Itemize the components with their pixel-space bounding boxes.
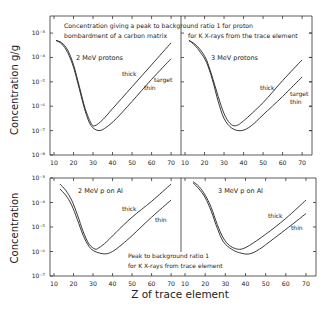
top-caption-line1: Concentration giving a peak to backgroun… — [64, 22, 253, 30]
x-tick-label: 70 — [167, 280, 175, 287]
y-tick-label: 10⁻³ — [32, 174, 46, 181]
bottom-caption-line1: Peak to background ratio 1 — [128, 252, 209, 260]
x-tick-label: 70 — [298, 159, 306, 166]
x-tick-label: 70 — [167, 159, 175, 166]
top-y-axis-label: Concentration g/g — [9, 45, 20, 135]
x-tick-label: 40 — [242, 280, 250, 287]
y-tick-label: 10⁻⁷ — [32, 127, 46, 134]
x-axis-label: Z of trace element — [131, 288, 229, 300]
x-tick-label: 50 — [262, 280, 270, 287]
y-tick-label: 10⁻⁶ — [32, 248, 46, 255]
annotation-target: target — [154, 76, 173, 84]
panel-bottom-right: 102030405060703 MeV p on Althickthin — [181, 178, 316, 287]
x-tick-label: 30 — [89, 159, 97, 166]
x-tick-label: 20 — [70, 159, 78, 166]
x-tick-label: 50 — [259, 159, 267, 166]
annotation-thick: thick — [260, 84, 275, 91]
top-caption-line2a: bombardment of a carbon matrix — [64, 32, 168, 39]
x-tick-label: 60 — [282, 280, 290, 287]
x-tick-label: 20 — [201, 159, 209, 166]
y-tick-label: 10⁻³ — [32, 29, 46, 36]
x-tick-label: 50 — [128, 280, 136, 287]
y-tick-label: 10⁻⁴ — [32, 53, 46, 60]
x-tick-label: 30 — [221, 280, 229, 287]
y-tick-label: 10⁻⁸ — [32, 151, 46, 158]
panel-title: 2 MeV p on Al — [78, 187, 123, 195]
x-tick-label: 10 — [50, 159, 58, 166]
x-tick-label: 20 — [201, 280, 209, 287]
panel-title: 3 MeV p on Al — [218, 187, 263, 195]
annotation-thin: thin — [291, 224, 303, 231]
x-tick-label: 60 — [279, 159, 287, 166]
x-tick-label: 30 — [220, 159, 228, 166]
annotation-thick: thick — [268, 212, 283, 219]
x-tick-label: 40 — [109, 280, 117, 287]
panel-title: 2 MeV protons — [76, 54, 124, 62]
top-caption-line2b: for K X-rays from the trace element — [188, 32, 298, 40]
y-tick-label: 10⁻⁵ — [32, 223, 46, 230]
figure-canvas: 1020304050607010⁻³10⁻⁴10⁻⁵10⁻⁶10⁻⁷10⁻⁸2 … — [0, 0, 332, 313]
y-tick-label: 10⁻⁴ — [32, 199, 46, 206]
annotation-thin: thin — [155, 216, 167, 223]
x-tick-label: 40 — [109, 159, 117, 166]
x-tick-label: 60 — [148, 159, 156, 166]
x-tick-label: 20 — [70, 280, 78, 287]
x-tick-label: 30 — [89, 280, 97, 287]
annotation-target: target — [290, 90, 309, 98]
y-tick-label: 10⁻⁶ — [32, 102, 46, 109]
x-tick-label: 40 — [240, 159, 248, 166]
x-tick-label: 10 — [50, 280, 58, 287]
y-tick-label: 10⁻⁵ — [32, 78, 46, 85]
x-tick-label: 10 — [181, 159, 189, 166]
bottom-y-axis-label: Concentration — [9, 193, 20, 264]
panel-bottom-left: 1020304050607010⁻³10⁻⁴10⁻⁵10⁻⁶10⁻⁷2 MeV … — [32, 174, 181, 287]
x-tick-label: 60 — [148, 280, 156, 287]
annotation-thin: thin — [290, 98, 302, 105]
panel-title: 3 MeV protons — [211, 54, 259, 62]
x-tick-label: 70 — [302, 280, 310, 287]
y-tick-label: 10⁻⁷ — [32, 272, 46, 279]
bottom-caption: Peak to background ratio 1 for K X-rays … — [128, 252, 223, 270]
bottom-caption-line2: for K X-rays from trace element — [128, 262, 223, 270]
annotation-thin: thin — [144, 84, 156, 91]
annotation-thick: thick — [122, 205, 137, 212]
x-tick-label: 10 — [181, 280, 189, 287]
annotation-thick: thick — [122, 70, 137, 77]
x-tick-label: 50 — [128, 159, 136, 166]
